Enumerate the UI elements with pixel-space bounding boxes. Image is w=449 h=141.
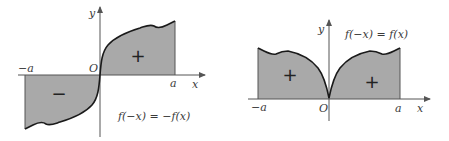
tick-label-a: a	[395, 102, 402, 115]
tick-label-neg-a: −a	[18, 62, 34, 75]
left-positive-sign: +	[282, 64, 297, 85]
y-axis-label: y	[88, 7, 96, 20]
positive-sign: +	[130, 45, 145, 66]
x-axis-label: x	[417, 102, 424, 115]
x-axis-label: x	[192, 78, 199, 91]
right-positive-sign: +	[364, 71, 379, 92]
even-equation: f(−x) = f(x)	[344, 28, 408, 41]
negative-sign: −	[51, 83, 66, 104]
origin-label: O	[89, 62, 98, 75]
figure: y x O −a a + − f(−x) = −f(x) y x O −a a …	[0, 0, 449, 141]
even-function-diagram: y x O −a a + + f(−x) = f(x)	[248, 20, 430, 121]
y-axis-label: y	[317, 23, 325, 36]
odd-equation: f(−x) = −f(x)	[117, 110, 190, 123]
origin-label: O	[319, 102, 328, 115]
odd-function-diagram: y x O −a a + − f(−x) = −f(x)	[18, 7, 205, 137]
tick-label-a: a	[170, 77, 177, 90]
tick-label-neg-a: −a	[251, 101, 267, 114]
